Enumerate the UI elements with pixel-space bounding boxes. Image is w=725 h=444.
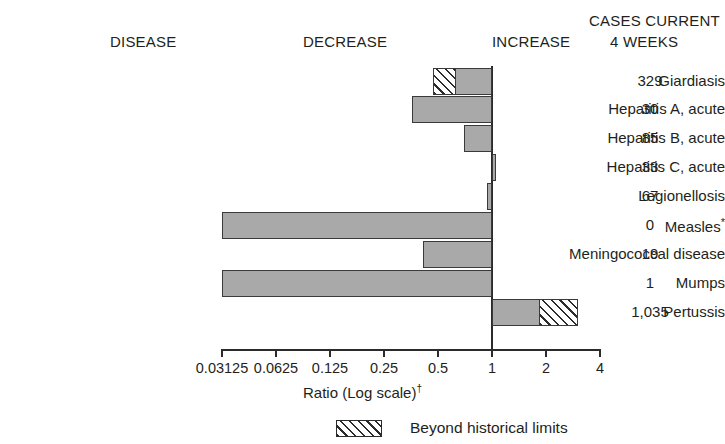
mmwr-notifiable-diseases-figure: DISEASE DECREASE INCREASE CASES CURRENT …	[0, 0, 725, 444]
table-row: Hepatitis C, acute33	[0, 154, 725, 183]
hatched-swatch-icon	[336, 420, 382, 437]
x-axis-tick	[275, 349, 276, 357]
x-axis-tick	[437, 349, 438, 357]
x-axis-tick-label: 0.0625	[254, 360, 298, 376]
x-axis-tick-label: 1	[488, 360, 496, 376]
cases-count: 85	[596, 129, 704, 146]
column-header-cases-line2: 4 WEEKS	[610, 33, 678, 50]
table-row: Giardiasis329	[0, 68, 725, 97]
cases-count: 329	[596, 72, 704, 89]
legend-label: Beyond historical limits	[410, 419, 568, 437]
x-axis-tick-label: 4	[596, 360, 604, 376]
x-axis-tick	[221, 349, 222, 357]
x-axis-tick	[383, 349, 384, 357]
x-axis-title-footnote: †	[416, 383, 422, 394]
x-axis-tick-label: 0.5	[428, 360, 448, 376]
cases-count: 1,035	[596, 303, 704, 320]
x-axis-line	[222, 349, 600, 351]
x-axis-tick	[491, 349, 492, 357]
table-row: Hepatitis B, acute85	[0, 125, 725, 154]
table-row: Measles*0	[0, 212, 725, 241]
table-row: Pertussis1,035	[0, 299, 725, 328]
x-axis-tick	[545, 349, 546, 357]
x-axis-tick-label: 0.03125	[196, 360, 248, 376]
x-axis-tick-label: 0.25	[370, 360, 398, 376]
column-header-disease: DISEASE	[110, 33, 176, 50]
x-axis-title-text: Ratio (Log scale)	[303, 384, 416, 401]
cases-count: 33	[596, 158, 704, 175]
table-row: Hepatitis A, acute30	[0, 96, 725, 125]
x-axis-tick-label: 0.125	[312, 360, 348, 376]
cases-count: 30	[596, 100, 704, 117]
cases-count: 0	[596, 216, 704, 233]
legend: Beyond historical limits	[336, 419, 568, 437]
x-axis-title: Ratio (Log scale)†	[0, 383, 725, 401]
table-row: Mumps1	[0, 270, 725, 299]
table-row: Legionellosis67	[0, 183, 725, 212]
column-header-cases-line1: CASES CURRENT	[589, 12, 720, 29]
cases-count: 1	[596, 274, 704, 291]
disease-label-footnote: *	[721, 216, 725, 228]
x-axis-tick	[329, 349, 330, 357]
x-axis-tick-label: 2	[542, 360, 550, 376]
column-header-decrease: DECREASE	[303, 33, 387, 50]
cases-count: 19	[596, 245, 704, 262]
x-axis-tick	[599, 349, 600, 357]
table-row: Meningococcal disease19	[0, 241, 725, 270]
cases-count: 67	[596, 187, 704, 204]
column-header-increase: INCREASE	[492, 33, 570, 50]
